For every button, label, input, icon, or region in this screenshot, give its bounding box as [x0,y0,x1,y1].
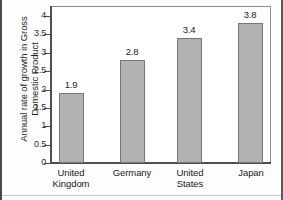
x-category-label-line-1: United [40,167,102,178]
bar-chart: Annual rate of growth in Gross Domestic … [0,0,283,200]
y-axis-title-line-1: Annual rate of growth in Gross [18,0,29,164]
y-tick-label-4: 4 [41,11,46,20]
y-tick-label-2_5: 2.5 [34,66,46,75]
x-category-label-united-states: United States [159,167,221,189]
x-category-label-line-1: Japan [220,167,282,178]
y-tick-label-1: 1 [41,121,46,130]
bar-value-japan: 3.8 [230,9,270,20]
x-category-label-line-1: United [159,167,221,178]
bar-germany[interactable] [120,60,145,163]
y-tick-label-3: 3 [41,48,46,57]
bar-value-united-kingdom: 1.9 [51,79,91,90]
x-category-label-japan: Japan [220,167,282,178]
x-category-label-line-2: States [159,178,221,189]
x-category-label-line-2: Kingdom [40,178,102,189]
x-category-label-line-1: Germany [101,167,163,178]
y-tick-label-2: 2 [41,85,46,94]
bar-united-states[interactable] [177,38,202,163]
y-tick-label-1_5: 1.5 [34,103,46,112]
y-tick-label-0_5: 0.5 [34,140,46,149]
x-category-label-germany: Germany [101,167,163,178]
bar-value-germany: 2.8 [112,46,152,57]
bar-value-united-states: 3.4 [169,24,209,35]
x-category-label-united-kingdom: United Kingdom [40,167,102,189]
bar-united-kingdom[interactable] [59,93,84,163]
bar-japan[interactable] [238,23,263,163]
y-tick-label-0: 0 [41,158,46,167]
y-tick-label-3_5: 3.5 [34,29,46,38]
